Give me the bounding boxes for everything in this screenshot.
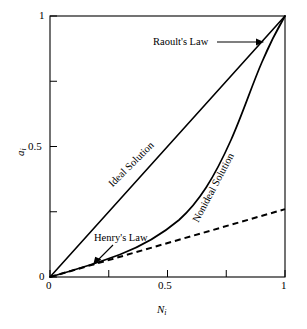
chart-figure: 0 0.5 1 0 0.5 1 ai Ni Raoult's Law Ideal… xyxy=(0,0,307,329)
raoults-law-arrow xyxy=(217,39,264,46)
y-tick-label-0p5: 0.5 xyxy=(28,141,42,152)
x-tick-label-0p5: 0.5 xyxy=(158,280,172,291)
x-tick-label-1: 1 xyxy=(281,280,287,291)
x-axis-title: Ni xyxy=(157,303,167,317)
curve-ideal-solution xyxy=(50,16,285,277)
y-tick-label-1: 1 xyxy=(39,10,45,21)
y-axis-title: ai xyxy=(14,148,28,156)
y-axis-ticks xyxy=(50,16,57,277)
annotation-henrys-law: Henry's Law xyxy=(94,232,148,243)
x-axis-ticks xyxy=(50,270,285,277)
x-tick-label-0: 0 xyxy=(46,280,52,291)
annotation-raoults-law: Raoult's Law xyxy=(153,36,208,47)
y-tick-label-0: 0 xyxy=(39,271,45,282)
